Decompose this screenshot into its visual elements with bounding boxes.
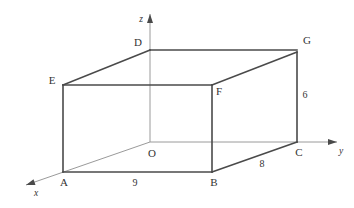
vertex-label-D: D bbox=[134, 36, 142, 48]
box-edges-group bbox=[63, 50, 297, 172]
axis-arrowheads-group bbox=[26, 14, 337, 185]
vertex-label-O: O bbox=[148, 147, 156, 159]
vertex-labels-group: OABCDEFG bbox=[49, 34, 311, 188]
axis-label-z: z bbox=[138, 14, 143, 24]
length-BC: 8 bbox=[260, 158, 265, 169]
diagram-canvas: 986 OABCDEFG xyz bbox=[0, 0, 354, 208]
dimension-labels-group: 986 bbox=[133, 89, 308, 188]
axis-lines-group bbox=[26, 14, 337, 185]
vertex-label-B: B bbox=[210, 176, 217, 188]
vertex-label-F: F bbox=[216, 85, 222, 97]
axis-label-x: x bbox=[33, 188, 39, 198]
axis-x-line bbox=[26, 142, 150, 185]
edge-B-C bbox=[212, 142, 297, 172]
vertex-label-E: E bbox=[49, 74, 56, 86]
axis-z-arrowhead bbox=[147, 14, 153, 23]
edge-F-G bbox=[212, 52, 297, 85]
vertex-label-C: C bbox=[295, 146, 302, 158]
axis-label-y: y bbox=[338, 146, 344, 156]
axis-y-arrowhead bbox=[328, 139, 337, 145]
length-CG: 6 bbox=[303, 89, 308, 100]
edge-E-D bbox=[63, 50, 150, 85]
geometry-figure: 986 OABCDEFG xyz bbox=[0, 0, 354, 208]
vertex-label-A: A bbox=[60, 176, 68, 188]
length-AB: 9 bbox=[133, 177, 138, 188]
vertex-label-G: G bbox=[303, 34, 311, 46]
axis-x-arrowhead bbox=[26, 179, 35, 185]
